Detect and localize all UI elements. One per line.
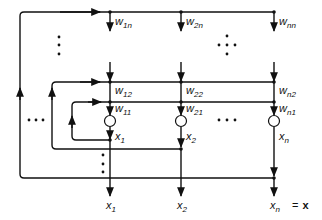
label-w21: w21 (186, 102, 203, 117)
middle-feedback-loop (52, 82, 274, 149)
label-wn1: wn1 (279, 102, 296, 117)
label-node-x1: x1 (114, 130, 125, 145)
label-wnn: wnn (279, 15, 296, 30)
label-w12: w12 (115, 84, 132, 99)
label-w22: w22 (186, 84, 203, 99)
label-output-x1: x1 (105, 199, 116, 214)
label-wn2: wn2 (279, 84, 296, 99)
label-node-x2: x2 (185, 130, 197, 145)
neuron-1 (105, 116, 116, 127)
vertical-ellipsis-bottom (102, 154, 105, 174)
label-node-xn: xn (278, 130, 290, 145)
label-w11: w11 (115, 102, 131, 117)
inner-feedback-loop (72, 102, 274, 140)
label-output-x2: x2 (176, 199, 188, 214)
diagonal-ellipsis (218, 35, 237, 56)
vertical-ellipsis-left (58, 36, 61, 56)
network-diagram: w1n w2n wnn w12 w22 wn2 w11 w21 wn1 x1 x… (0, 0, 322, 220)
label-output-xn: xn (269, 199, 281, 214)
neuron-n (269, 116, 280, 127)
label-w2n: w2n (186, 15, 203, 30)
horizontal-ellipsis-left (28, 119, 45, 122)
label-w1n: w1n (115, 15, 132, 30)
output-vector-equation: =x (292, 199, 309, 211)
horizontal-ellipsis-middle (218, 119, 237, 122)
neuron-2 (176, 116, 187, 127)
diagram-svg: w1n w2n wnn w12 w22 wn2 w11 w21 wn1 x1 x… (0, 0, 322, 220)
